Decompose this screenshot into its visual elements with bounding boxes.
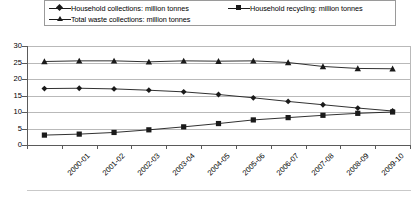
legend-label: Household recycling: million tonnes xyxy=(250,5,363,13)
square-marker-icon xyxy=(228,4,250,14)
triangle-marker-icon xyxy=(49,15,71,25)
data-point-square xyxy=(286,115,291,120)
series-household-collections xyxy=(42,85,396,114)
legend-item-total-waste-collections: Total waste collections: million tonnes xyxy=(49,14,190,25)
data-point-square xyxy=(251,117,256,122)
legend-item-household-collections: Household collections: million tonnes xyxy=(49,3,189,14)
series-total-waste-collections xyxy=(41,58,396,72)
chart-screenshot: Household collections: million tonnes Ho… xyxy=(0,0,414,197)
data-point-diamond xyxy=(111,86,117,92)
legend-label: Total waste collections: million tonnes xyxy=(71,16,190,24)
legend-label: Household collections: million tonnes xyxy=(71,5,189,13)
data-point-square xyxy=(181,124,186,129)
data-point-square xyxy=(42,133,47,138)
data-point-diamond xyxy=(42,86,48,92)
data-point-square xyxy=(146,127,151,132)
data-point-diamond xyxy=(76,85,82,91)
data-point-diamond xyxy=(181,89,187,95)
data-point-square xyxy=(320,113,325,118)
legend-item-household-recycling: Household recycling: million tonnes xyxy=(228,3,363,14)
data-point-diamond xyxy=(250,95,256,101)
series-container xyxy=(0,40,414,197)
chart-legend: Household collections: million tonnes Ho… xyxy=(44,0,396,26)
series-household-recycling xyxy=(42,109,395,137)
data-point-diamond xyxy=(355,105,361,111)
data-point-diamond xyxy=(216,92,222,98)
data-point-diamond xyxy=(285,99,291,105)
data-point-square xyxy=(216,121,221,126)
data-point-square xyxy=(390,109,395,114)
data-point-square xyxy=(77,132,82,137)
data-point-square xyxy=(355,111,360,116)
data-point-square xyxy=(111,130,116,135)
data-point-diamond xyxy=(320,102,326,108)
diamond-marker-icon xyxy=(49,4,71,14)
data-point-diamond xyxy=(146,87,152,93)
bottom-border xyxy=(27,190,411,191)
plot-area: 302520151050 2000-012001-022002-032003-0… xyxy=(0,40,414,197)
